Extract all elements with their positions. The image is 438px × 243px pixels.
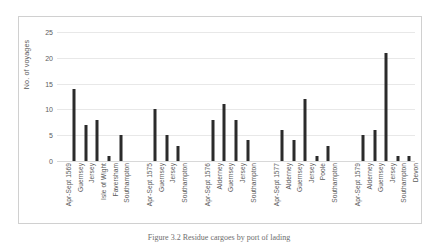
chart-bar (165, 135, 168, 161)
bar-slot (288, 32, 300, 161)
x-tick-label: Guernsey (296, 163, 303, 192)
chart-bar (396, 156, 399, 161)
bar-slot (242, 32, 254, 161)
bar-slot (380, 32, 392, 161)
bar-slot (369, 32, 381, 161)
chart-bar (246, 140, 249, 161)
chart-bar (84, 125, 87, 161)
x-tick-label: Guernsey (227, 163, 234, 192)
figure-container: No. of voyages 0510152025 Apr-Sept 1569G… (0, 0, 438, 243)
x-tick-label: Jersey (88, 163, 95, 183)
chart-bar (119, 135, 122, 161)
x-tick-label: Apr-Sept 1577 (273, 163, 280, 206)
chart-bar (373, 130, 376, 161)
x-tick-label: Southampton (181, 163, 188, 203)
chart-bar (315, 156, 318, 161)
y-axis-tick-labels: 0510152025 (36, 32, 53, 161)
bar-slot (311, 32, 323, 161)
x-tick-label: Jersey (169, 163, 176, 183)
chart-bar (234, 120, 237, 161)
y-tick-label: 0 (49, 158, 53, 165)
chart-bar (362, 135, 365, 161)
chart-plot-area (57, 32, 415, 161)
x-tick-label: Apr-Sept 1569 (65, 163, 72, 206)
x-tick-label: Alderney (216, 163, 223, 189)
chart-bar (211, 120, 214, 161)
chart-bar (385, 53, 388, 161)
bar-slot (115, 32, 127, 161)
x-tick-label: Alderney (285, 163, 292, 189)
x-tick-label: Poole (319, 163, 326, 180)
x-tick-label: Jersey (389, 163, 396, 183)
y-tick-label: 10 (45, 106, 53, 113)
chart-bar (292, 140, 295, 161)
bar-slot (80, 32, 92, 161)
bar-slot (323, 32, 335, 161)
x-tick-label: Faversham (112, 163, 119, 196)
x-tick-label: Southampton (123, 163, 130, 203)
chart-bar (154, 109, 157, 161)
y-tick-label: 20 (45, 54, 53, 61)
chart-bar (107, 156, 110, 161)
figure-caption: Figure 3.2 Residue cargoes by port of la… (0, 233, 438, 242)
chart-bar (304, 99, 307, 161)
x-tick-label: Southampton (250, 163, 257, 203)
bar-slot (92, 32, 104, 161)
x-tick-label: Devon (412, 163, 419, 182)
chart-bar (223, 104, 226, 161)
x-tick-label: Alderney (366, 163, 373, 189)
chart-bars (57, 32, 415, 161)
bar-slot (403, 32, 415, 161)
x-tick-label: Isle of Wight (100, 163, 107, 200)
bar-slot (392, 32, 404, 161)
y-axis-title: No. of voyages (22, 30, 31, 100)
x-tick-label: Jersey (308, 163, 315, 183)
x-tick-label: Guernsey (158, 163, 165, 192)
y-tick-label: 5 (49, 132, 53, 139)
chart-bar (281, 130, 284, 161)
x-tick-label: Apr-Sept 1579 (354, 163, 361, 206)
bar-slot (161, 32, 173, 161)
x-tick-label: Guernsey (377, 163, 384, 192)
bar-slot (219, 32, 231, 161)
bar-slot (300, 32, 312, 161)
chart-bar (96, 120, 99, 161)
bar-slot (276, 32, 288, 161)
y-tick-label: 25 (45, 29, 53, 36)
bar-slot (103, 32, 115, 161)
x-tick-label: Jersey (239, 163, 246, 183)
bar-slot (207, 32, 219, 161)
chart-bar (327, 146, 330, 161)
bar-slot (69, 32, 81, 161)
bar-slot (357, 32, 369, 161)
x-axis-tick-labels: Apr-Sept 1569GuernseyJerseyIsle of Wight… (57, 163, 415, 221)
x-tick-label: Apr-Sept 1576 (204, 163, 211, 206)
bar-slot (230, 32, 242, 161)
gridline-0 (57, 161, 415, 162)
chart-bar (408, 156, 411, 161)
bar-slot (149, 32, 161, 161)
x-tick-label: Southampton (400, 163, 407, 203)
x-tick-label: Guernsey (77, 163, 84, 192)
chart-bar (73, 89, 76, 161)
x-tick-label: Apr-Sept 1575 (146, 163, 153, 206)
chart-bar (177, 146, 180, 161)
bar-slot (172, 32, 184, 161)
y-tick-label: 15 (45, 80, 53, 87)
x-tick-label: Southampton (331, 163, 338, 203)
